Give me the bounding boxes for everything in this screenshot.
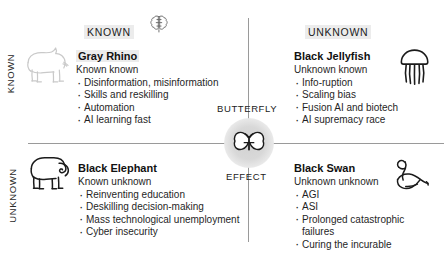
quadrant-subtitle-black-elephant: Known unknown — [78, 176, 239, 187]
elephant-icon — [28, 152, 78, 196]
list-item: Automation — [76, 102, 219, 114]
list-item: AI supremacy race — [294, 114, 398, 126]
quadrant-title-black-jellyfish: Black Jellyfish — [294, 50, 370, 62]
axis-label-row-known: KNOWN — [5, 51, 16, 97]
quadrant-title-gray-rhino: Gray Rhino — [76, 50, 139, 62]
quadrant-subtitle-gray-rhino: Known known — [76, 64, 219, 75]
column-header-known: KNOWN — [84, 25, 134, 39]
list-item: Deskilling decision-making — [78, 201, 239, 213]
centre-label-effect: EFFECT — [226, 171, 267, 182]
known-unknown-matrix: KNOWN UNKNOWN KNOWN UNKNOWN Gray Rhino K… — [0, 0, 444, 260]
jellyfish-icon — [396, 44, 434, 92]
quadrant-list-black-jellyfish: Info-ruption Scaling bias Fusion AI and … — [294, 77, 398, 127]
quadrant-list-black-elephant: Reinventing education Deskilling decisio… — [78, 189, 239, 239]
list-item: Reinventing education — [78, 189, 239, 201]
list-item: AI learning fast — [76, 114, 219, 126]
quadrant-list-black-swan: AGI ASI Prolonged catastrophic failures … — [294, 189, 406, 251]
list-item: AGI — [294, 189, 406, 201]
quadrant-subtitle-black-jellyfish: Unknown known — [294, 64, 398, 75]
quadrant-subtitle-black-swan: Unknown unknown — [294, 176, 406, 187]
list-item: Skills and reskilling — [76, 89, 219, 101]
rhino-icon — [24, 43, 76, 91]
quadrant-black-swan: Black Swan Unknown unknown AGI ASI Prolo… — [294, 158, 406, 251]
brain-icon — [148, 13, 170, 39]
list-item: Disinformation, misinformation — [76, 77, 219, 89]
list-item: ASI — [294, 201, 406, 213]
list-item: Cyber insecurity — [78, 226, 239, 238]
butterfly-node — [224, 118, 274, 168]
list-item: Prolonged catastrophic failures — [294, 214, 406, 239]
centre-label-butterfly: BUTTERFLY — [217, 103, 277, 114]
quadrant-black-elephant: Black Elephant Known unknown Reinventing… — [78, 158, 239, 239]
quadrant-title-black-swan: Black Swan — [294, 162, 355, 174]
column-header-unknown: UNKNOWN — [305, 25, 371, 39]
quadrant-title-black-elephant: Black Elephant — [78, 162, 157, 174]
list-item: Fusion AI and biotech — [294, 102, 398, 114]
quadrant-gray-rhino: Gray Rhino Known known Disinformation, m… — [76, 46, 219, 127]
list-item: Curing the incurable — [294, 239, 406, 251]
quadrant-black-jellyfish: Black Jellyfish Unknown known Info-rupti… — [294, 46, 398, 127]
list-item: Info-ruption — [294, 77, 398, 89]
horizontal-divider-right — [270, 143, 444, 144]
list-item: Scaling bias — [294, 89, 398, 101]
list-item: Mass technological unemployment — [78, 214, 239, 226]
axis-label-row-unknown: UNKNOWN — [7, 166, 18, 226]
quadrant-list-gray-rhino: Disinformation, misinformation Skills an… — [76, 77, 219, 127]
